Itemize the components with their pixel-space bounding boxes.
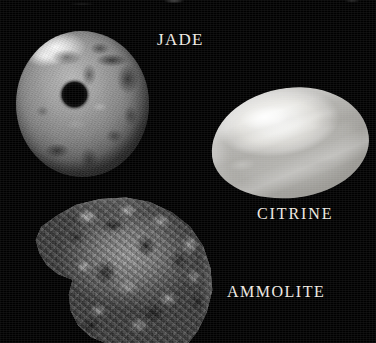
cropped-caption-remnant [0,0,376,6]
citrine-specular-highlight [205,79,375,207]
specimen-label-ammolite: AMMOLITE [227,284,325,300]
specimen-ammolite [32,196,216,343]
gemstone-photo-plate: JADE CITRINE AMMOLITE [0,0,376,343]
specimen-citrine [205,79,375,207]
specimen-label-jade: JADE [157,31,204,48]
specimen-jade [16,31,149,177]
jade-center-hole [62,82,87,107]
ammolite-rim-highlight [32,196,216,343]
specimen-label-citrine: CITRINE [257,206,333,222]
